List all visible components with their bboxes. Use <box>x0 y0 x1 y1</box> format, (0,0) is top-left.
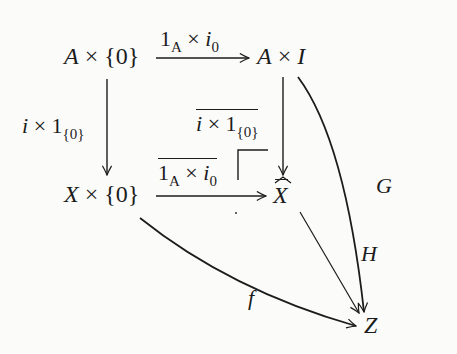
label-inner-vertical: i × 1{0} <box>196 109 258 135</box>
label-iv-times: × <box>208 111 220 136</box>
label-f: f <box>248 287 254 309</box>
node-z-base: Z <box>364 312 377 338</box>
node-x-set: {0} <box>104 181 139 207</box>
label-top-times: × <box>187 26 199 51</box>
hat-accent <box>274 176 292 184</box>
label-top-sub: A <box>171 39 182 55</box>
label-top-one: 1 <box>160 26 171 51</box>
node-x-times: × <box>85 181 99 207</box>
label-left-times: × <box>34 113 46 138</box>
label-iv-map: i <box>196 111 202 136</box>
label-H: H <box>361 243 377 265</box>
label-ih-times: × <box>185 160 197 185</box>
label-top-map-sub: 0 <box>211 39 219 55</box>
node-a-set: {0} <box>104 43 139 69</box>
label-ih-one: 1 <box>158 160 169 185</box>
label-ih-map-sub: 0 <box>209 173 217 189</box>
node-a-base: A <box>64 43 79 69</box>
node-x-hat: X <box>273 183 288 207</box>
label-left-arrow: i × 1{0} <box>22 115 84 137</box>
label-left-sub: {0} <box>63 126 85 142</box>
speck <box>235 212 237 214</box>
label-left-map: i <box>22 113 28 138</box>
overline-group-horizontal: 1A × i0 <box>158 158 217 184</box>
label-left-one: 1 <box>52 113 63 138</box>
label-G: G <box>376 175 392 197</box>
node-z: Z <box>364 313 377 337</box>
overline-group-vertical: i × 1{0} <box>196 109 258 135</box>
label-inner-horizontal: 1A × i0 <box>158 158 217 184</box>
label-ih-sub: A <box>169 173 180 189</box>
arrow-H <box>300 212 359 313</box>
node-a-times-0: A × {0} <box>64 44 139 68</box>
node-x-times-0: X × {0} <box>64 182 139 206</box>
arrow-G <box>298 77 364 312</box>
node-ai-base: A <box>257 43 272 69</box>
pullback-corner <box>238 150 268 180</box>
label-top-arrow: 1A × i0 <box>160 28 219 50</box>
label-iv-sub: {0} <box>237 124 259 140</box>
label-iv-one: 1 <box>226 111 237 136</box>
node-x-base: X <box>64 181 79 207</box>
x-hat-symbol: X <box>273 183 288 207</box>
node-ai-space: I <box>297 43 305 69</box>
node-a-times-i: A × I <box>257 44 305 68</box>
node-a-times: × <box>85 43 99 69</box>
node-ai-times: × <box>278 43 292 69</box>
